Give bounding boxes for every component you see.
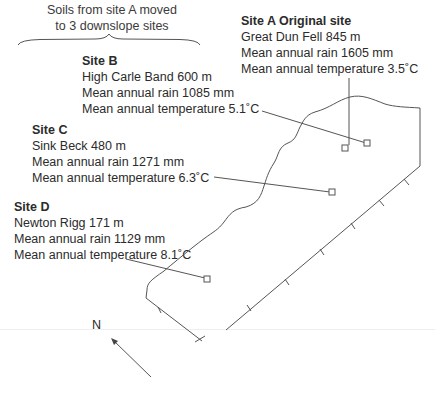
brace-icon xyxy=(18,34,200,45)
slope-outline-wavy xyxy=(146,96,420,298)
site-d-leader xyxy=(126,259,205,278)
site-c-marker xyxy=(329,189,335,195)
site-b-leader xyxy=(262,111,366,143)
north-arrow-icon xyxy=(113,340,151,377)
site-b-marker xyxy=(364,140,370,146)
site-d-marker xyxy=(204,276,210,282)
site-a-marker xyxy=(342,145,348,151)
slope-outline-left xyxy=(146,298,202,341)
site-c-leader xyxy=(214,177,330,192)
slope-diagram xyxy=(0,0,435,393)
